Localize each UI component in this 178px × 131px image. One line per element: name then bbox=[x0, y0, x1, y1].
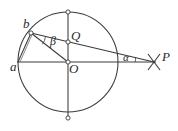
geometry-figure: a b O Q P α β bbox=[0, 0, 178, 131]
label-point-q: Q bbox=[71, 29, 80, 42]
point-marker-q bbox=[66, 40, 70, 44]
point-marker-b bbox=[29, 31, 33, 35]
point-marker-top bbox=[66, 10, 70, 14]
point-marker-bottom bbox=[66, 116, 70, 120]
label-point-a: a bbox=[10, 60, 17, 73]
label-point-p: P bbox=[162, 50, 170, 63]
chord-a-to-b-line-echo bbox=[20, 34, 33, 63]
label-angle-alpha: α bbox=[123, 52, 129, 63]
label-point-o: O bbox=[69, 62, 78, 75]
label-angle-beta: β bbox=[50, 35, 56, 47]
label-point-b: b bbox=[23, 17, 30, 30]
